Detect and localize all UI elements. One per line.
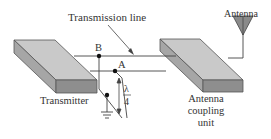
- node-a: [113, 69, 117, 73]
- coupling-unit-label-line1: Antenna: [188, 93, 224, 104]
- coupling-unit-label-line3: unit: [198, 117, 214, 128]
- point-b-label: B: [95, 42, 102, 53]
- quarter-wave-stub-diagram: Transmission line Antenna Transmitter An…: [0, 0, 271, 139]
- transmission-line-label: Transmission line: [68, 11, 146, 23]
- coupling-unit-label-line2: coupling: [188, 105, 225, 116]
- quarter-wavelength-dimension: [117, 78, 121, 114]
- point-a-label: A: [118, 59, 126, 70]
- antenna-label: Antenna: [224, 8, 258, 19]
- transmission-line-pointer: [108, 25, 134, 55]
- lambda-label: λ: [124, 83, 129, 94]
- antenna-coupling-unit-box: [160, 39, 243, 92]
- node-ground: [105, 93, 109, 97]
- transmitter-box: [14, 40, 97, 93]
- four-label: 4: [124, 96, 129, 107]
- node-b: [97, 54, 101, 58]
- ground-icon: [101, 112, 113, 118]
- antenna: [228, 16, 253, 58]
- transmitter-label: Transmitter: [40, 95, 89, 106]
